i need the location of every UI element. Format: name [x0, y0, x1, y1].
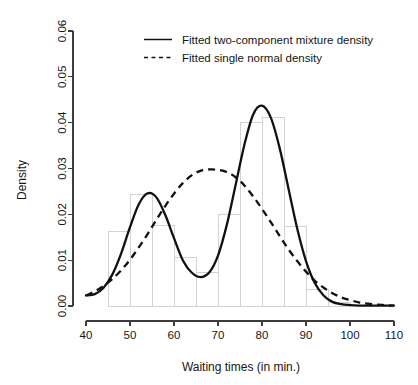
density-plot-figure: 0.000.010.020.030.040.050.06 40506070809… — [0, 0, 418, 385]
y-axis-tick-label: 0.04 — [56, 111, 68, 134]
y-axis-tick-label: 0.00 — [56, 295, 68, 317]
y-axis: 0.000.010.020.030.040.050.06 — [56, 20, 73, 317]
y-axis-tick-label: 0.05 — [56, 66, 68, 88]
histogram-bar — [152, 225, 174, 306]
legend-label-single-normal: Fitted single normal density — [182, 52, 322, 64]
x-axis: 405060708090100110 — [80, 321, 404, 341]
x-axis-tick-label: 110 — [385, 329, 403, 341]
y-axis-tick-label: 0.02 — [56, 203, 68, 225]
legend-label-mixture: Fitted two-component mixture density — [182, 34, 373, 46]
x-axis-tick-label: 70 — [212, 329, 225, 341]
histogram-bar — [218, 215, 240, 306]
x-axis-tick-label: 100 — [340, 329, 359, 341]
y-axis-tick-label: 0.01 — [56, 249, 68, 271]
legend: Fitted two-component mixture density Fit… — [144, 34, 373, 64]
histogram-bar — [108, 232, 130, 306]
x-axis-tick-label: 40 — [80, 329, 93, 341]
plot-canvas: 0.000.010.020.030.040.050.06 40506070809… — [0, 0, 418, 385]
histogram-bar — [130, 195, 152, 306]
y-axis-title: Density — [15, 160, 29, 200]
x-axis-tick-label: 80 — [256, 329, 269, 341]
histogram-bar — [262, 117, 284, 306]
x-axis-title: Waiting times (in min.) — [182, 360, 300, 374]
x-axis-tick-label: 60 — [168, 329, 181, 341]
y-axis-tick-label: 0.03 — [56, 157, 68, 179]
y-axis-tick-label: 0.06 — [56, 20, 68, 42]
x-axis-tick-label: 50 — [124, 329, 137, 341]
histogram-bar — [284, 227, 306, 306]
x-axis-tick-label: 90 — [300, 329, 313, 341]
